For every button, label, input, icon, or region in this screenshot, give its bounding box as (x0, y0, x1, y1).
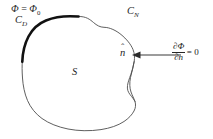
fraction-numerator: ∂Φ (172, 42, 185, 51)
normal-arrow-head (132, 52, 141, 59)
right-boundary-notch (127, 62, 135, 102)
dirichlet-boundary-path (22, 16, 78, 62)
neumann-equation-tail: = 0 (187, 48, 199, 57)
neumann-boundary-path (22, 16, 135, 130)
neumann-equation-label: ∂Φ ∂n = 0 (172, 42, 199, 63)
dirichlet-phi-subscript: 0 (37, 9, 40, 16)
dirichlet-phi-symbol: Φ (11, 3, 19, 14)
hat-accent-icon: ˆ (121, 43, 124, 52)
boundary-value-diagram: Φ = Φ0 CD CN S ˆn ∂Φ ∂n = 0 (0, 0, 213, 139)
neumann-curve-subscript: N (134, 11, 139, 19)
normal-vector-label: ˆn (120, 48, 125, 59)
neumann-curve-base: C (127, 5, 134, 16)
partial-derivative-fraction: ∂Φ ∂n (172, 42, 185, 63)
dirichlet-curve-label: CD (15, 15, 27, 28)
dirichlet-phi-base: Φ (29, 3, 37, 14)
neumann-curve-label: CN (127, 6, 139, 19)
region-label: S (72, 67, 77, 78)
normal-vector-glyph: ˆn (120, 48, 125, 59)
domain-boundary-svg (0, 0, 213, 139)
fraction-denominator: ∂n (173, 53, 184, 62)
dirichlet-curve-subscript: D (22, 20, 27, 28)
dirichlet-curve-base: C (15, 14, 22, 25)
dirichlet-equals-sign: = (19, 3, 30, 14)
